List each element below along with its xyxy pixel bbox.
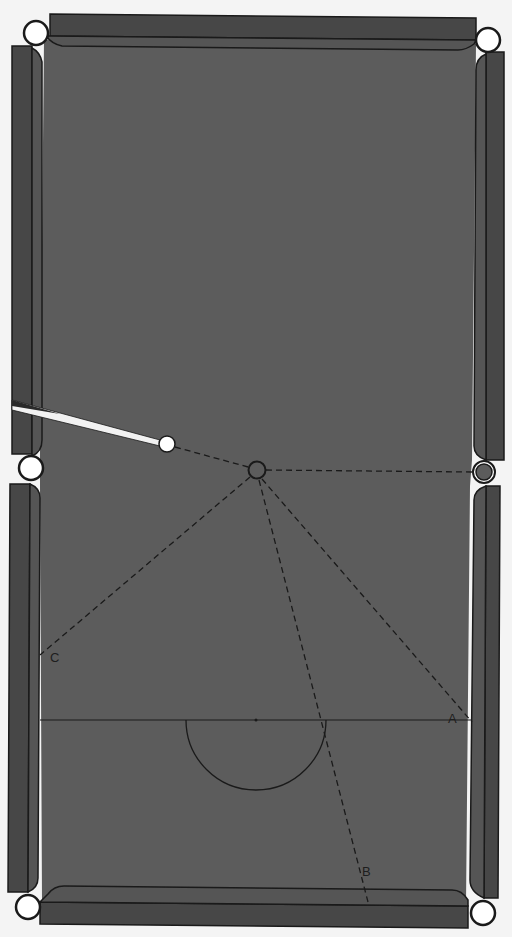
left-middle-pocket [19,456,43,480]
right-upper-cushion [474,54,486,460]
snooker-table-diagram: A B C [0,0,512,937]
object-ball [249,462,266,479]
bottom-cushion [40,886,468,906]
bottom-left-pocket [16,895,40,919]
right-upper-rail [486,52,504,460]
left-lower-rail [8,484,30,892]
left-lower-cushion [28,484,40,892]
bottom-right-pocket [471,901,495,925]
left-upper-rail [12,46,32,454]
right-middle-pocket [473,461,495,483]
label-a: A [448,711,457,726]
label-c: C [50,650,59,665]
cue-ball [159,436,175,452]
top-left-pocket [24,21,48,45]
label-b: B [362,864,371,879]
left-upper-cushion [32,48,42,456]
brown-spot [255,719,258,722]
top-right-pocket [476,28,500,52]
